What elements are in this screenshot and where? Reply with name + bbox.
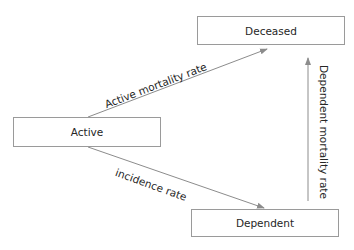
node-deceased: Deceased bbox=[197, 16, 345, 45]
state-transition-diagram: Deceased Active Dependent Active mortali… bbox=[0, 0, 354, 250]
node-active-label: Active bbox=[71, 126, 103, 138]
node-dependent-label: Dependent bbox=[236, 217, 294, 229]
node-active: Active bbox=[13, 117, 161, 147]
node-deceased-label: Deceased bbox=[245, 25, 297, 37]
node-dependent: Dependent bbox=[191, 209, 339, 237]
edge-label-dependent-mortality-rate: Dependent mortality rate bbox=[318, 65, 330, 199]
